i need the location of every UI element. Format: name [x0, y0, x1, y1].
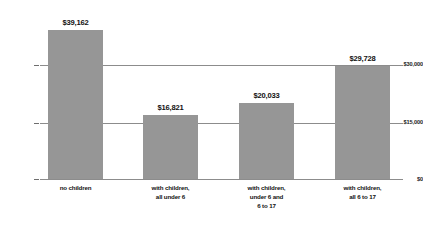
bar-value-label: $16,821: [143, 104, 198, 112]
x-axis-category-label: no children: [23, 184, 128, 193]
bar: [239, 103, 294, 179]
bar-value-label: $39,162: [48, 19, 103, 27]
x-axis-category-line: no children: [23, 184, 128, 193]
bar-value-label: $29,728: [335, 55, 390, 63]
x-axis-category-line: with children,: [214, 184, 319, 193]
bar-value-label: $20,033: [239, 92, 294, 100]
x-axis-category-line: 6 to 17: [214, 202, 319, 211]
tick-mark-0: [34, 179, 39, 180]
x-axis-baseline: [40, 179, 403, 180]
bar: [143, 115, 198, 179]
bar: [335, 66, 390, 179]
x-axis-category-line: with children,: [118, 184, 223, 193]
x-axis-category-label: with children,all 6 to 17: [310, 184, 415, 202]
x-axis-category-line: under 6 and: [214, 193, 319, 202]
plot-area: $39,162 $16,821 $20,033 $29,728 no child…: [40, 12, 403, 180]
x-axis-category-line: all under 6: [118, 193, 223, 202]
tick-mark-15000: [34, 123, 39, 124]
x-axis-category-line: with children,: [310, 184, 415, 193]
bar-chart: $0 $15,000 $30,000 $39,162 $16,821 $20,0…: [0, 0, 423, 227]
x-axis-category-label: with children,all under 6: [118, 184, 223, 202]
x-axis-category-label: with children,under 6 and6 to 17: [214, 184, 319, 211]
bar: [48, 30, 103, 179]
x-axis-category-line: all 6 to 17: [310, 193, 415, 202]
tick-mark-30000: [34, 65, 39, 66]
